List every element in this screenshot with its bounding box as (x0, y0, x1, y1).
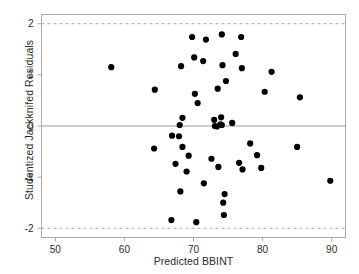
data-point (294, 144, 300, 150)
data-point-series (108, 31, 333, 225)
data-point (172, 161, 178, 167)
y-tick-label: 2 (28, 18, 34, 29)
x-tick-label: 70 (188, 244, 200, 255)
data-point (178, 63, 184, 69)
data-point (233, 51, 239, 57)
data-point (219, 122, 225, 128)
data-point (192, 91, 198, 97)
data-point (195, 100, 201, 106)
data-point (223, 78, 229, 84)
data-point (201, 180, 207, 186)
data-point (208, 156, 214, 162)
data-point (268, 69, 274, 75)
x-axis-ticks: 5060708090 (50, 238, 338, 255)
y-tick-label: -1 (25, 172, 34, 183)
data-point (189, 34, 195, 40)
data-point (239, 65, 245, 71)
data-point (297, 94, 303, 100)
data-point (219, 62, 225, 68)
data-point (179, 144, 185, 150)
x-tick-label: 50 (50, 244, 62, 255)
y-tick-label: 1 (28, 69, 34, 80)
data-point (200, 58, 206, 64)
reference-lines (42, 24, 346, 229)
data-point (221, 191, 227, 197)
data-point (203, 36, 209, 42)
x-tick-label: 90 (326, 244, 338, 255)
data-point (176, 133, 182, 139)
scatter-plot-figure: Studentized Jackknifed Residuals Predict… (0, 0, 359, 274)
data-point (254, 152, 260, 158)
data-point (220, 200, 226, 206)
data-point (258, 165, 264, 171)
data-point (179, 115, 185, 121)
data-point (168, 217, 174, 223)
data-point (193, 219, 199, 225)
x-tick-label: 80 (257, 244, 269, 255)
y-tick-label: -2 (25, 223, 34, 234)
x-tick-label: 60 (119, 244, 131, 255)
data-point (247, 140, 253, 146)
data-point (215, 86, 221, 92)
data-point (215, 164, 221, 170)
data-point (239, 166, 245, 172)
data-point (151, 145, 157, 151)
data-point (218, 114, 224, 120)
data-point (191, 54, 197, 60)
data-point (177, 188, 183, 194)
data-point (211, 117, 217, 123)
plot-area: 210-1-2 5060708090 (0, 0, 359, 274)
data-point (169, 133, 175, 139)
y-axis-ticks: 210-1-2 (25, 18, 42, 234)
data-point (327, 178, 333, 184)
data-point (108, 64, 114, 70)
data-point (152, 87, 158, 93)
data-point (221, 212, 227, 218)
data-point (262, 89, 268, 95)
data-point (183, 168, 189, 174)
data-point (238, 34, 244, 40)
data-point (177, 122, 183, 128)
data-point (229, 120, 235, 126)
y-tick-label: 0 (28, 121, 34, 132)
data-point (236, 160, 242, 166)
data-point (186, 153, 192, 159)
data-point (219, 31, 225, 37)
